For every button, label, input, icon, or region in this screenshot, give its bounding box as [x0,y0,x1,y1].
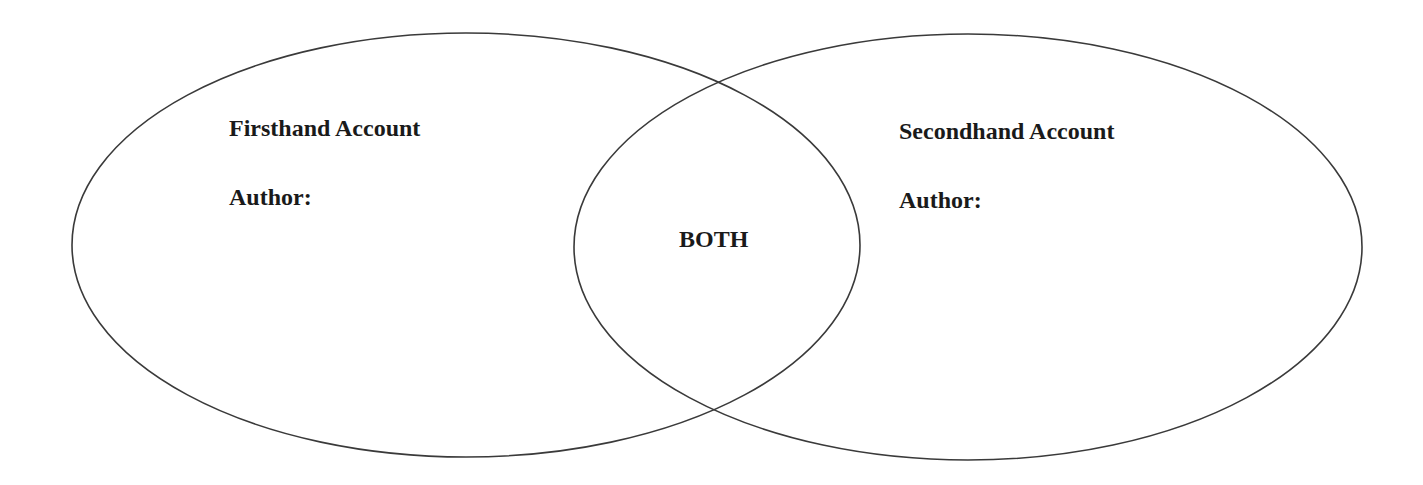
right-circle-title: Secondhand Account [899,119,1114,143]
right-circle-author-label: Author: [899,188,982,212]
left-circle-title: Firsthand Account [229,116,420,140]
venn-diagram: Firsthand Account Author: BOTH Secondhan… [0,0,1423,485]
overlap-label: BOTH [679,227,748,251]
left-circle-author-label: Author: [229,185,312,209]
